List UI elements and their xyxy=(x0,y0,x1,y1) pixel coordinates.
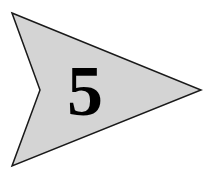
arrowhead-shape xyxy=(12,13,201,166)
arrowhead-graphic: 5 xyxy=(0,0,213,178)
arrow-number-label: 5 xyxy=(67,51,103,131)
